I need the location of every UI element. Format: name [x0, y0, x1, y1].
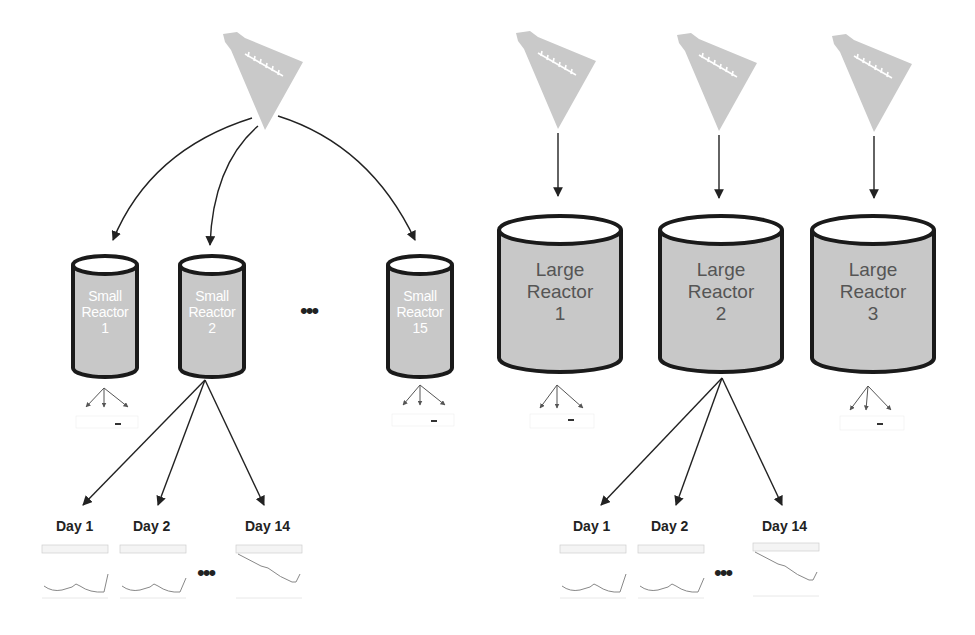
day-label-left-14: Day 14	[245, 518, 290, 534]
source-flask-large-1	[516, 31, 596, 196]
day-label-right-1: Day 1	[573, 518, 610, 534]
reactor2-to-days-arrows	[83, 380, 264, 505]
source-flask-left	[223, 32, 303, 130]
large-reactor-2[interactable]	[660, 216, 782, 372]
day-chart-right-14[interactable]	[753, 542, 819, 596]
large-reactor2-to-days-arrows	[601, 378, 782, 505]
day-label-left-2: Day 2	[133, 518, 170, 534]
flask-to-reactor-arrows	[113, 116, 415, 245]
small-reactor-2[interactable]	[180, 256, 244, 377]
days-ellipsis-left: •••	[197, 560, 214, 586]
large-reactor-3[interactable]	[812, 216, 934, 372]
mini-fanout-small-1	[76, 388, 138, 428]
days-ellipsis-right: •••	[714, 560, 731, 586]
mini-fanout-large-1	[530, 385, 594, 428]
small-reactor-15[interactable]	[388, 256, 452, 377]
small-reactor-1[interactable]	[73, 256, 137, 377]
reactor-ellipsis: •••	[300, 298, 317, 324]
mini-fanout-small-15	[392, 385, 454, 426]
large-reactor-1[interactable]	[499, 216, 621, 372]
day-label-left-1: Day 1	[56, 518, 93, 534]
day-label-right-2: Day 2	[651, 518, 688, 534]
day-label-right-14: Day 14	[762, 518, 807, 534]
day-chart-right-2[interactable]	[638, 544, 704, 598]
day-chart-left-14[interactable]	[236, 544, 302, 598]
day-chart-right-1[interactable]	[560, 544, 626, 598]
diagram-canvas	[0, 0, 975, 635]
day-chart-left-1[interactable]	[42, 544, 108, 598]
source-flask-large-2	[677, 33, 757, 198]
day-chart-left-2[interactable]	[120, 544, 186, 598]
mini-fanout-large-3	[840, 386, 904, 430]
source-flask-large-3	[832, 34, 912, 198]
